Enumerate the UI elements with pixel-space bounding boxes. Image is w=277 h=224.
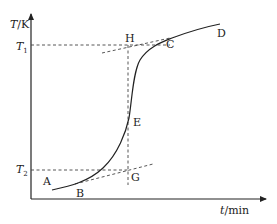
- t2-label: T2: [16, 163, 28, 178]
- temperature-curve: [52, 24, 220, 190]
- point-label-e: E: [133, 116, 141, 129]
- y-axis-label: T/K: [10, 18, 30, 31]
- point-label-g: G: [131, 171, 140, 184]
- lower-tangent-line: [75, 164, 153, 184]
- point-label-c: C: [166, 38, 174, 51]
- t1-label: T1: [16, 40, 28, 55]
- point-label-b: B: [76, 187, 84, 200]
- point-label-h: H: [125, 32, 135, 45]
- point-label-d: D: [217, 27, 226, 40]
- heating-curve-diagram: T/K t/min T1 T2 A B G E H C D: [0, 0, 277, 224]
- x-axis-label: t/min: [220, 204, 249, 217]
- upper-tangent-line: [102, 38, 170, 53]
- point-label-a: A: [42, 175, 52, 188]
